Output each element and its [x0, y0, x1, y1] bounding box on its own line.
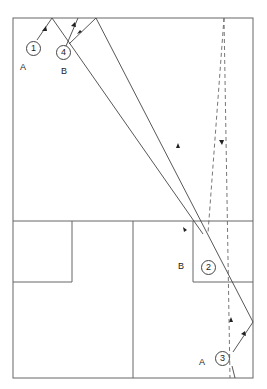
frame — [13, 18, 253, 378]
point-label-B-2: B — [178, 262, 184, 271]
point-label-A-3: A — [199, 358, 205, 367]
point-label-A-1: A — [20, 63, 26, 72]
point-label-B-4: B — [61, 67, 67, 76]
point-marker-3: 3 — [215, 351, 230, 366]
ray-diagram — [0, 0, 267, 389]
dashed-rays — [208, 18, 230, 378]
arrowheads — [42, 22, 246, 336]
point-marker-4: 4 — [56, 45, 71, 60]
solid-rays — [37, 18, 253, 378]
point-marker-2: 2 — [201, 260, 216, 275]
point-marker-1: 1 — [26, 41, 41, 56]
